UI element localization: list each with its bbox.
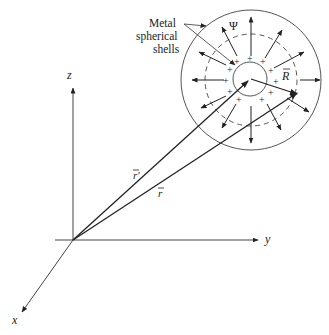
shell-label-line3: shells xyxy=(153,43,180,55)
svg-text:+: + xyxy=(259,94,265,105)
r-prime-vector xyxy=(73,81,248,240)
svg-text:+: + xyxy=(260,56,266,67)
r-prime-label: r′ xyxy=(133,169,140,181)
x-axis-label: x xyxy=(11,313,18,327)
y-axis-label: y xyxy=(264,232,271,246)
svg-text:+: + xyxy=(268,65,274,76)
r-vector xyxy=(73,93,297,240)
pointer-to-inner-shell xyxy=(184,24,235,65)
flux-label: Ψ xyxy=(229,19,238,33)
axes: z y x xyxy=(11,68,271,327)
r-label: r xyxy=(158,187,163,199)
svg-text:+: + xyxy=(273,76,279,87)
diagram-canvas: z y x + + + + + + + + + + + xyxy=(0,0,329,335)
shell-label-line2: spherical xyxy=(136,30,178,43)
svg-text:+: + xyxy=(247,53,253,64)
svg-text:+: + xyxy=(234,56,240,67)
x-axis xyxy=(22,240,73,312)
svg-text:+: + xyxy=(236,94,242,105)
z-axis-label: z xyxy=(66,68,72,82)
R-label: R xyxy=(281,69,290,83)
shell-label-line1: Metal xyxy=(149,17,176,29)
inner-shell xyxy=(233,62,267,96)
svg-text:+: + xyxy=(227,64,233,75)
shell-annotation: Metal spherical shells xyxy=(136,17,235,65)
svg-text:+: + xyxy=(223,75,229,86)
pointer-to-outer-shell xyxy=(184,24,206,26)
svg-text:+: + xyxy=(268,87,274,98)
